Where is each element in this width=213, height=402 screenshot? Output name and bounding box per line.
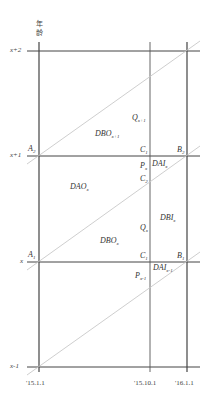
point-Px: Px (140, 162, 147, 171)
region-DBO-x: DBOx (100, 237, 119, 246)
region-Q-x+1: Qx+1 (132, 114, 146, 123)
y-tick-x-1: x-1 (10, 363, 19, 370)
x-tick-15-10-1: '15.10.1 (134, 380, 156, 387)
point-C2: C2 (140, 175, 148, 184)
x-tick-16-1-1: '16.1.1 (175, 380, 194, 387)
region-DAI-x: DAIx (152, 160, 168, 169)
x-tick-15-1-1: '15.1.1 (26, 380, 45, 387)
y-axis-title-char-2: 龄 (34, 29, 44, 38)
y-tick-x+2: x+2 (10, 47, 21, 54)
lifeline-2 (27, 146, 200, 270)
y-tick-x: x (20, 258, 23, 265)
y-axis-title-char-1: 年 (34, 20, 44, 29)
point-C1-lower: C1 (140, 252, 148, 261)
y-axis-title: 年 龄 (34, 20, 44, 38)
region-Q-x: Qx (140, 224, 148, 233)
region-DAO-x: DAOx (70, 183, 89, 192)
region-DBO-x+1: DBOx+1 (95, 130, 120, 139)
lifeline-3 (27, 41, 200, 164)
lifeline-1 (27, 252, 200, 375)
point-B1: B1 (177, 252, 184, 261)
region-DAI-x-1: DAIx-1 (153, 264, 173, 273)
y-tick-x+1: x+1 (10, 152, 21, 159)
point-C1-upper: C1 (140, 146, 148, 155)
point-Px-1: Px-1 (135, 272, 146, 281)
point-A2: A2 (28, 145, 35, 154)
lexis-diagram-canvas (0, 0, 213, 402)
point-A1: A1 (28, 251, 35, 260)
point-B2: B2 (177, 146, 184, 155)
region-DBI-x: DBIx (160, 214, 176, 223)
